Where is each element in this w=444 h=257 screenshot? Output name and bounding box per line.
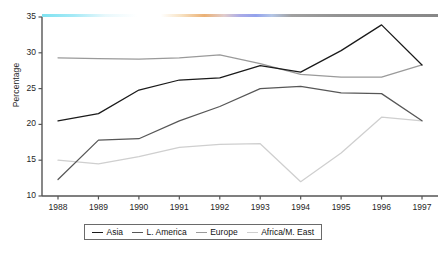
- y-tick-label: 15: [14, 154, 36, 164]
- x-tick-label: 1995: [321, 202, 361, 212]
- legend-item-label: Asia: [107, 227, 124, 237]
- legend-color-swatch: [196, 232, 207, 233]
- legend-color-swatch: [247, 232, 258, 233]
- legend-color-swatch: [92, 232, 103, 233]
- y-tick-label: 10: [14, 190, 36, 200]
- x-tick-label: 1989: [78, 202, 118, 212]
- axis-lines: [39, 17, 439, 200]
- legend-item: Europe: [196, 227, 238, 237]
- legend-item-label: Europe: [210, 227, 237, 237]
- legend-item-label: L. America: [147, 227, 187, 237]
- x-tick-label: 1992: [200, 202, 240, 212]
- legend-item: L. America: [132, 227, 187, 237]
- legend-item: Africa/M. East: [247, 227, 314, 237]
- x-tick-label: 1991: [159, 202, 199, 212]
- plot-area: [0, 0, 444, 257]
- x-tick-label: 1990: [119, 202, 159, 212]
- y-tick-label: 20: [14, 118, 36, 128]
- y-tick-label: 30: [14, 47, 36, 57]
- x-tick-label: 1996: [362, 202, 402, 212]
- series-lines: [58, 25, 422, 182]
- legend-item: Asia: [92, 227, 123, 237]
- line-chart: Percentage 101520253035 1988198919901991…: [0, 0, 444, 257]
- y-tick-label: 25: [14, 83, 36, 93]
- x-tick-label: 1988: [38, 202, 78, 212]
- legend-item-label: Africa/M. East: [261, 227, 314, 237]
- x-tick-label: 1997: [402, 202, 442, 212]
- x-tick-label: 1993: [240, 202, 280, 212]
- y-tick-label: 35: [14, 11, 36, 21]
- legend: AsiaL. AmericaEuropeAfrica/M. East: [84, 224, 322, 240]
- x-tick-label: 1994: [281, 202, 321, 212]
- legend-color-swatch: [132, 232, 143, 233]
